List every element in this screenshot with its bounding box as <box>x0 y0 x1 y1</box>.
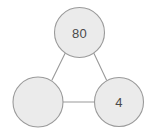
node-label-top: 80 <box>72 26 87 41</box>
edge-top-to-bottom-right <box>94 54 107 81</box>
graph-canvas: 80 4 <box>0 0 153 131</box>
node-top[interactable]: 80 <box>55 8 105 58</box>
graph-diagram: 80 4 <box>0 0 153 131</box>
node-label-bottom-right: 4 <box>115 95 122 110</box>
node-bottom-left[interactable] <box>13 77 63 127</box>
node-circle-bottom-left[interactable] <box>13 77 63 127</box>
node-bottom-right[interactable]: 4 <box>95 78 144 127</box>
edge-top-to-bottom-left <box>52 54 65 81</box>
